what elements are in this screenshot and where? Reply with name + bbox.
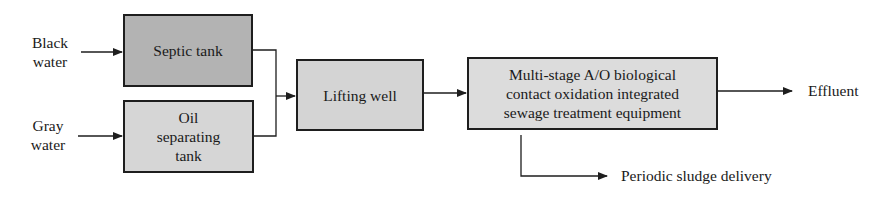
output-effluent: Effluent — [808, 81, 859, 100]
label-line: Black — [22, 33, 78, 52]
input-black-water: Black water — [22, 33, 78, 71]
node-oil-separating-tank: Oil separating tank — [123, 100, 254, 173]
label-line: water — [22, 52, 78, 71]
label-line: sewage treatment equipment — [504, 103, 681, 122]
merge-line — [253, 50, 276, 136]
input-gray-water: Gray water — [20, 116, 76, 154]
node-treatment-equipment: Multi-stage A/O biological contact oxida… — [467, 57, 718, 130]
node-label: Septic tank — [153, 41, 222, 60]
label-line: Oil — [157, 108, 221, 127]
node-label: Lifting well — [323, 86, 397, 105]
label-line: Gray — [20, 116, 76, 135]
node-lifting-well: Lifting well — [296, 59, 424, 131]
label-line: water — [20, 135, 76, 154]
node-septic-tank: Septic tank — [123, 14, 253, 87]
label-line: tank — [157, 146, 221, 165]
arrow-to-sludge — [521, 135, 607, 176]
label-line: separating — [157, 127, 221, 146]
label-line: contact oxidation integrated — [504, 84, 681, 103]
output-sludge: Periodic sludge delivery — [621, 166, 772, 185]
label-line: Multi-stage A/O biological — [504, 65, 681, 84]
